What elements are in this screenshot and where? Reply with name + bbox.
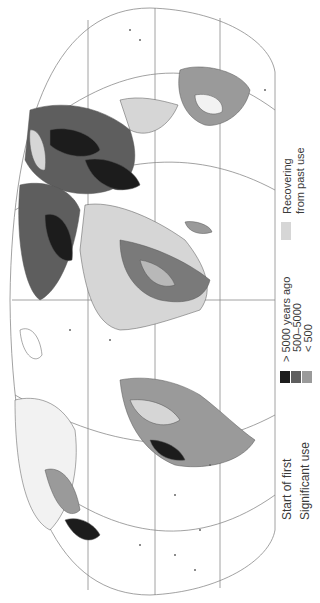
legend-label-recovering-line2: from past use bbox=[294, 147, 306, 214]
legend-swatch-over-5000 bbox=[280, 371, 290, 383]
legend-swatch-500-5000 bbox=[291, 371, 301, 383]
legend-title-line2: Significant use bbox=[298, 442, 312, 520]
south-america bbox=[120, 378, 255, 467]
legend-swatch-under-500 bbox=[302, 371, 312, 383]
australia bbox=[179, 67, 250, 125]
legend-label-under-500: < 500 bbox=[302, 324, 314, 352]
land-masses bbox=[15, 67, 255, 540]
madagascar bbox=[185, 222, 212, 234]
southeast-asia bbox=[120, 98, 178, 133]
legend-label-recovering-line1: Recovering bbox=[281, 158, 293, 214]
legend-title-line1: Start of first bbox=[280, 459, 294, 520]
legend-swatch-recovering bbox=[281, 222, 291, 240]
greenland bbox=[20, 329, 42, 359]
world-map bbox=[0, 0, 320, 603]
